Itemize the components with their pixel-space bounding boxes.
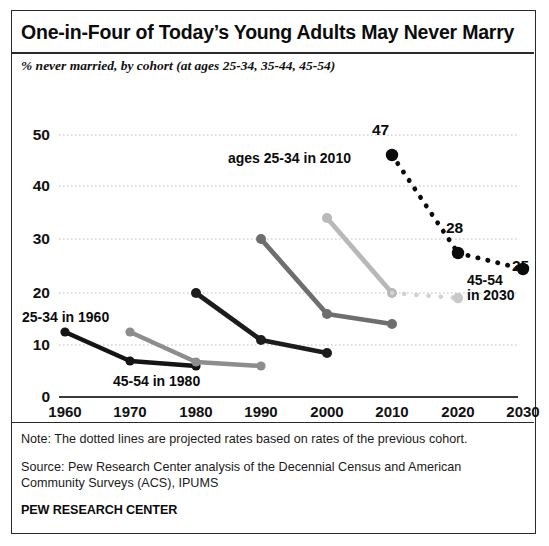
data-label-47: 47 xyxy=(372,121,389,139)
y-tick-30: 30 xyxy=(16,230,50,248)
annotation-cohort-2030-line2: in 2030 xyxy=(467,287,514,303)
x-tick-1970: 1970 xyxy=(102,403,158,420)
chart-source: Source: Pew Research Center analysis of … xyxy=(21,460,526,491)
x-tick-2000: 2000 xyxy=(299,403,355,420)
data-label-28: 28 xyxy=(446,219,463,237)
annotation-cohort-2030: 45-54 in 2030 xyxy=(467,273,514,304)
x-tick-2010: 2010 xyxy=(364,403,420,420)
y-tick-20: 20 xyxy=(16,284,50,302)
series-25-34-in-1990 xyxy=(256,234,397,329)
annotation-cohort-1980: 45-54 in 1980 xyxy=(113,374,200,389)
x-tick-2020: 2020 xyxy=(430,403,486,420)
annotation-cohort-2010: ages 25-34 in 2010 xyxy=(228,151,351,166)
x-tick-2030: 2030 xyxy=(495,403,549,420)
footer-divider xyxy=(12,422,534,423)
chart-figure: One-in-Four of Today’s Young Adults May … xyxy=(11,10,536,534)
annotation-cohort-1960: 25-34 in 1960 xyxy=(22,310,109,325)
series-25-34-in-2000 xyxy=(322,213,397,298)
line-chart-plot xyxy=(12,11,534,532)
series-ages-25-34-in-2010 xyxy=(386,149,529,275)
brand-label: PEW RESEARCH CENTER xyxy=(21,503,177,517)
y-tick-40: 40 xyxy=(16,177,50,195)
y-tick-10: 10 xyxy=(16,336,50,354)
data-label-25: 25 xyxy=(512,257,529,275)
series-25-34-in-2000-projected xyxy=(392,293,463,303)
x-tick-1960: 1960 xyxy=(37,403,93,420)
x-tick-1990: 1990 xyxy=(233,403,289,420)
y-tick-50: 50 xyxy=(16,126,50,144)
x-tick-1980: 1980 xyxy=(168,403,224,420)
chart-note: Note: The dotted lines are projected rat… xyxy=(21,432,526,448)
annotation-cohort-2030-line1: 45-54 xyxy=(467,272,503,288)
